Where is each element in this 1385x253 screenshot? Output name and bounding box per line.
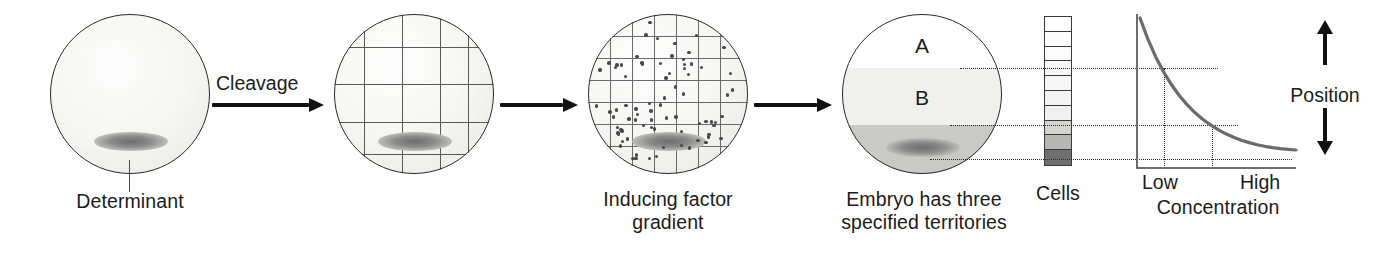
x-axis-label: Concentration bbox=[1128, 196, 1308, 219]
figure-canvas: Determinant Cleavage bbox=[0, 0, 1385, 253]
position-label: Position bbox=[1272, 84, 1378, 107]
position-arrow-down-icon bbox=[1317, 141, 1333, 155]
x-tick-low: Low bbox=[1142, 171, 1178, 194]
position-arrow-shaft-bottom bbox=[1323, 108, 1327, 141]
x-tick-high: High bbox=[1240, 171, 1280, 194]
position-arrow-shaft-top bbox=[1323, 33, 1327, 65]
position-arrow-up-icon bbox=[1317, 20, 1333, 34]
